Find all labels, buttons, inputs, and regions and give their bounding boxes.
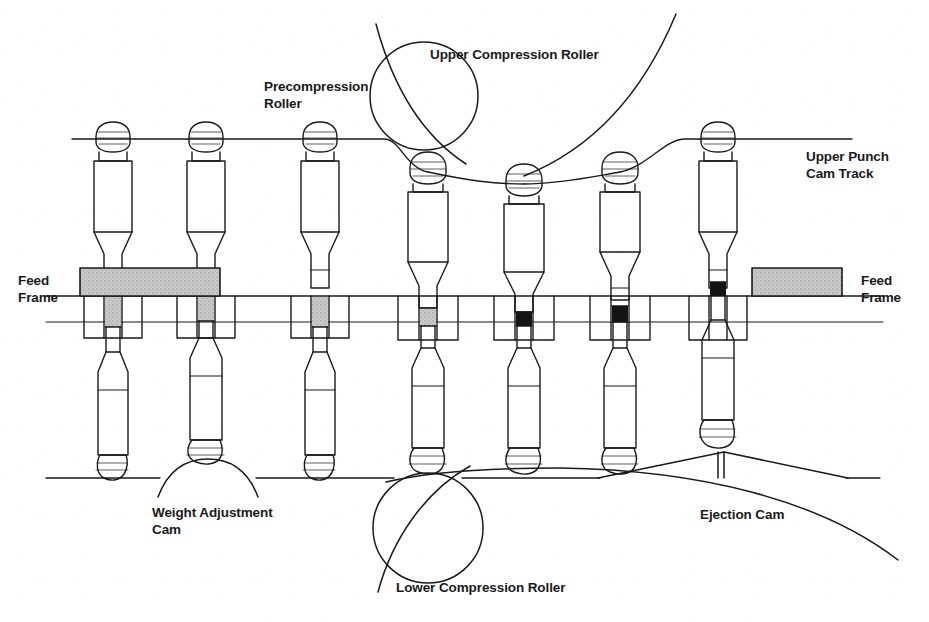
die-block-7 bbox=[689, 296, 747, 340]
die-block-1 bbox=[84, 296, 142, 338]
lower-punch-6 bbox=[601, 322, 638, 474]
station-1-fill bbox=[84, 122, 142, 480]
lower-punch-2 bbox=[187, 321, 224, 464]
lower-punch-7 bbox=[699, 296, 736, 448]
station-3-scrape bbox=[291, 122, 349, 480]
upper-punch-3 bbox=[301, 122, 339, 288]
upper-punch-1 bbox=[94, 122, 132, 288]
lower-punch-3 bbox=[303, 327, 335, 480]
label-upper-punch-cam-track: Upper Punch Cam Track bbox=[806, 148, 889, 182]
label-feed-frame-right: Feed Frame bbox=[861, 272, 901, 306]
label-upper-compression-roller: Upper Compression Roller bbox=[430, 46, 599, 63]
station-5-main-compression bbox=[494, 164, 554, 474]
station-6-post-compression bbox=[590, 152, 650, 474]
die-block-3 bbox=[291, 296, 349, 338]
feed-frame-left-box bbox=[80, 268, 220, 296]
precompression-roller-lower bbox=[373, 466, 483, 592]
die-block-6 bbox=[590, 296, 650, 340]
die-block-2 bbox=[177, 296, 235, 338]
upper-compression-roller-arc bbox=[524, 14, 676, 176]
label-feed-frame-left: Feed Frame bbox=[18, 272, 58, 306]
lower-punch-1 bbox=[96, 327, 128, 480]
die-block-5 bbox=[494, 296, 554, 340]
precompression-roller-upper bbox=[370, 24, 478, 164]
label-weight-adjustment-cam: Weight Adjustment Cam bbox=[152, 504, 273, 538]
lower-punch-4 bbox=[409, 326, 446, 474]
upper-punch-5 bbox=[504, 164, 544, 312]
feed-frame-right-box bbox=[752, 268, 842, 296]
label-lower-compression-roller: Lower Compression Roller bbox=[396, 579, 565, 596]
label-ejection-cam: Ejection Cam bbox=[700, 506, 784, 523]
station-4-precompression bbox=[398, 152, 458, 474]
diagram-canvas bbox=[0, 0, 929, 622]
die-table bbox=[46, 296, 883, 322]
tablet-press-diagram: Precompression Roller Upper Compression … bbox=[0, 0, 929, 622]
die-block-4 bbox=[398, 296, 458, 340]
upper-punch-7 bbox=[699, 122, 737, 288]
ejected-tablet bbox=[710, 282, 726, 296]
lower-punch-5 bbox=[505, 326, 542, 474]
station-7-ejection bbox=[689, 122, 747, 448]
upper-punch-2 bbox=[187, 122, 225, 288]
label-precompression-roller: Precompression Roller bbox=[264, 78, 368, 112]
lower-compression-roller-arc bbox=[386, 468, 898, 560]
